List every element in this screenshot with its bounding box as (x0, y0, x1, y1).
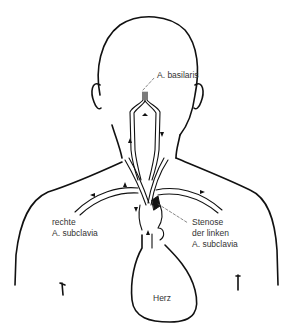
left-subclavian-inner (158, 194, 218, 213)
label-stenosis-3: A. subclavia (192, 239, 238, 250)
anatomy-diagram: A. basilaris rechte A. subclavia Stenose… (0, 0, 293, 333)
vertebral-artery-right-inner (145, 101, 156, 180)
label-right-subclavia-1: rechte (52, 217, 76, 228)
aortic-arch (139, 205, 163, 240)
neck-left (112, 125, 122, 158)
arrow-flow-5 (90, 193, 95, 197)
arrow-flow-1 (142, 113, 148, 116)
label-stenosis-1: Stenose (192, 217, 223, 228)
left-ear (92, 84, 101, 109)
vertebral-artery-left-inner (134, 92, 145, 180)
label-heart: Herz (153, 293, 171, 304)
carotid-left (125, 160, 146, 205)
left-subclavian-outer (156, 189, 222, 210)
arrow-flow-3 (160, 132, 164, 137)
stenosis-mark (152, 196, 160, 210)
neck-right (176, 135, 180, 158)
arrow-flow-7 (134, 207, 138, 212)
arrow-flow-4 (123, 182, 127, 187)
diagram-canvas (0, 0, 293, 333)
arrow-flow-8 (146, 230, 150, 235)
arrow-flow-6 (200, 190, 205, 194)
label-basilaris: A. basilaris (157, 70, 199, 81)
arrow-flow-2 (128, 138, 132, 143)
right-subclavian-outer (75, 188, 138, 212)
right-subclavian-inner (80, 193, 138, 215)
right-arm-mark (236, 275, 240, 290)
leader-basilaris (143, 77, 155, 90)
left-arm-mark (60, 283, 65, 295)
carotid-left-b (129, 158, 149, 203)
label-stenosis-2: der linken (192, 228, 229, 239)
label-right-subclavia-2: A. subclavia (52, 228, 98, 239)
heart-outline (132, 235, 197, 322)
